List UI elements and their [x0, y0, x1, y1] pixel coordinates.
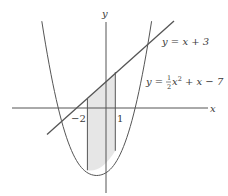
area-between-curves-diagram: y x −2 1 y = x + 3 y = 1 2 x2 + x − 7	[0, 0, 228, 196]
line-equation-label: y = x + 3	[161, 36, 209, 47]
tick-label-one: 1	[117, 113, 123, 124]
plot-canvas: y x −2 1 y = x + 3 y = 1 2 x2 + x − 7	[0, 0, 228, 196]
x-axis-label: x	[210, 103, 216, 114]
parabola-equation-tail: x2 + x − 7	[172, 75, 224, 87]
tick-label-neg-two: −2	[71, 113, 86, 124]
parabola-frac-numerator: 1	[167, 74, 171, 82]
parabola-frac-denominator: 2	[167, 83, 171, 91]
y-axis-label: y	[101, 8, 108, 19]
parabola-equation-label: y =	[145, 76, 163, 87]
